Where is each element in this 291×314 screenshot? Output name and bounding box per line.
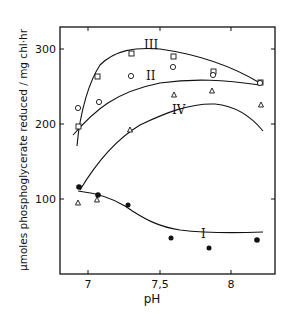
curve-label-IV: IV: [172, 103, 186, 117]
x-tick-7: 7: [85, 278, 92, 291]
y-tick-200: 200: [35, 118, 56, 131]
chart: 300 200 100 7 7,5 8 pH µmoles phosphogly…: [0, 0, 291, 314]
y-tick-300: 300: [35, 43, 56, 56]
series-III-markers: [76, 51, 263, 129]
series-II-markers: [75, 64, 262, 110]
y-axis-label: µmoles phosphoglycerate reduced / mg chl…: [17, 28, 29, 271]
curve-III: [77, 48, 260, 146]
y-tick-100: 100: [35, 193, 56, 206]
series-I-markers: [76, 184, 260, 250]
curve-label-I: I: [201, 227, 206, 241]
plot-frame: [60, 27, 275, 274]
x-axis-label: pH: [144, 292, 161, 306]
curve-I: [78, 191, 263, 233]
x-tick-7-5: 7,5: [151, 278, 169, 291]
curve-label-III: III: [144, 38, 158, 52]
curve-label-II: II: [146, 69, 156, 83]
x-tick-8: 8: [228, 278, 235, 291]
